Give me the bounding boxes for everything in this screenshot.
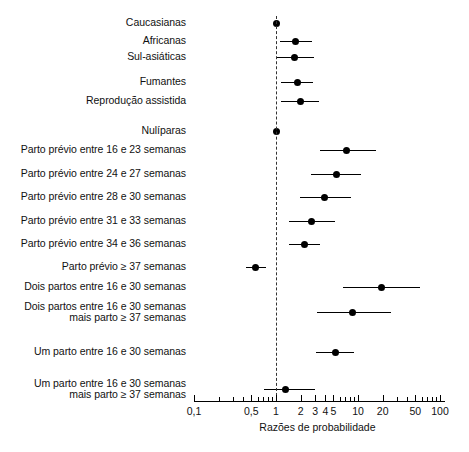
row-label: Caucasianas: [126, 17, 186, 29]
estimate-marker: [252, 264, 259, 271]
x-axis-minor-tick: [432, 397, 433, 401]
confidence-interval-line: [264, 389, 315, 390]
x-axis-tick: [440, 395, 441, 401]
x-axis-tick-label: 50: [409, 405, 421, 417]
row-label: Parto prévio entre 16 e 23 semanas: [21, 144, 186, 156]
row-label: Parto prévio entre 28 e 30 semanas: [21, 191, 186, 203]
estimate-marker: [291, 54, 298, 61]
estimate-marker: [333, 171, 340, 178]
x-axis-minor-tick: [354, 397, 355, 401]
estimate-marker: [378, 284, 385, 291]
x-axis-tick: [325, 395, 326, 401]
row-label: Africanas: [143, 35, 186, 47]
row-label: Reprodução assistida: [86, 95, 186, 107]
row-labels-column: CaucasianasAfricanasSul-asiáticasFumante…: [0, 0, 188, 400]
x-axis-tick: [383, 395, 384, 401]
estimate-marker: [294, 79, 301, 86]
estimate-marker: [301, 241, 308, 248]
x-axis-tick: [194, 395, 195, 401]
estimate-marker: [332, 349, 339, 356]
row-label: Nulíparas: [142, 125, 187, 137]
x-axis-tick: [333, 395, 334, 401]
row-label: Dois partos entre 16 e 30 semanas: [24, 281, 186, 293]
x-axis-tick: [251, 395, 252, 401]
x-axis-title: Razões de probabilidade: [259, 421, 375, 433]
x-axis-tick-label: 5: [330, 405, 336, 417]
row-label: Fumantes: [140, 76, 186, 88]
x-axis-tick-label: 3: [312, 405, 318, 417]
x-axis-minor-tick: [397, 397, 398, 401]
x-axis-line: [194, 401, 445, 402]
plot-area: 0,10,512345102050100Razões de probabilid…: [188, 0, 469, 452]
estimate-marker: [321, 194, 328, 201]
row-label: Um parto entre 16 e 30 semanas: [34, 346, 186, 358]
x-axis-minor-tick: [268, 397, 269, 401]
x-axis-minor-tick: [219, 397, 220, 401]
x-axis-minor-tick: [272, 397, 273, 401]
x-axis-tick-label: 0,5: [244, 405, 259, 417]
x-axis-tick-label: 10: [352, 405, 364, 417]
row-label: Um parto entre 16 e 30 semanas mais part…: [34, 378, 186, 401]
x-axis-tick: [315, 395, 316, 401]
estimate-marker: [297, 98, 304, 105]
x-axis-minor-tick: [233, 397, 234, 401]
x-axis-minor-tick: [422, 397, 423, 401]
x-axis-tick: [276, 395, 277, 401]
estimate-marker: [308, 218, 315, 225]
row-label: Parto prévio entre 24 e 27 semanas: [21, 168, 186, 180]
estimate-marker: [282, 386, 289, 393]
x-axis-tick-label: 4: [322, 405, 328, 417]
x-axis-minor-tick: [407, 397, 408, 401]
x-axis-minor-tick: [243, 397, 244, 401]
estimate-marker: [349, 309, 356, 316]
row-label: Parto prévio ≥ 37 semanas: [62, 261, 186, 273]
x-axis-tick-label: 20: [377, 405, 389, 417]
forest-plot-figure: CaucasianasAfricanasSul-asiáticasFumante…: [0, 0, 469, 452]
estimate-marker: [292, 38, 299, 45]
x-axis-minor-tick: [436, 397, 437, 401]
row-label: Sul-asiáticas: [127, 51, 186, 63]
x-axis-tick-label: 2: [298, 405, 304, 417]
x-axis-minor-tick: [345, 397, 346, 401]
x-axis-tick-label: 0,1: [187, 405, 202, 417]
x-axis-minor-tick: [258, 397, 259, 401]
x-axis-minor-tick: [263, 397, 264, 401]
x-axis-minor-tick: [340, 397, 341, 401]
row-label: Dois partos entre 16 e 30 semanas mais p…: [24, 301, 186, 324]
x-axis-minor-tick: [427, 397, 428, 401]
row-label: Parto prévio entre 31 e 33 semanas: [21, 215, 186, 227]
row-label: Parto prévio entre 34 e 36 semanas: [21, 238, 186, 250]
reference-line: [276, 16, 277, 401]
x-axis-tick: [415, 395, 416, 401]
x-axis-minor-tick: [350, 397, 351, 401]
x-axis-tick: [301, 395, 302, 401]
x-axis-tick-label: 100: [431, 405, 449, 417]
x-axis-tick-label: 1: [273, 405, 279, 417]
estimate-marker: [343, 147, 350, 154]
x-axis-tick: [358, 395, 359, 401]
